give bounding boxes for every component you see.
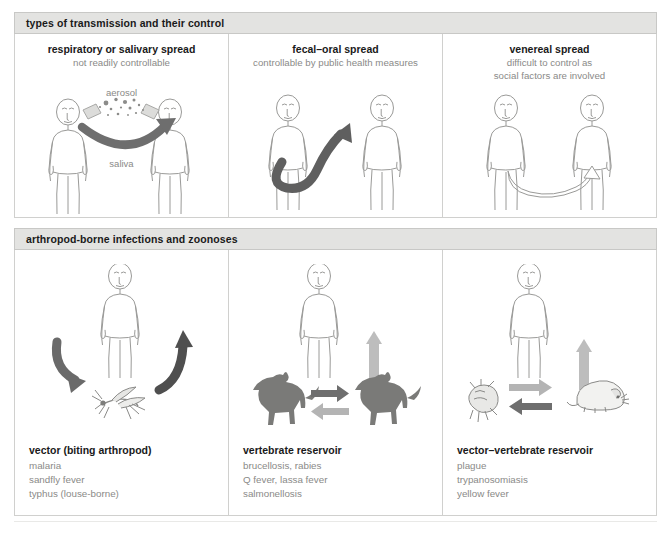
fecal-oral-spread-illustration bbox=[236, 92, 436, 217]
column-subtitle: not readily controllable bbox=[15, 57, 228, 70]
thin-arc-arrow-icon bbox=[508, 166, 600, 197]
label-saliva: saliva bbox=[15, 158, 228, 169]
curved-arrow-icon bbox=[82, 118, 176, 145]
human-figure bbox=[101, 264, 139, 378]
flea-icon bbox=[469, 379, 498, 422]
column-title: fecal–oral spread bbox=[229, 43, 442, 57]
caption-vector-vertebrate-reservoir: vector–vertebrate reservoir plague trypa… bbox=[457, 443, 648, 501]
s-curve-arrow-icon bbox=[276, 123, 352, 188]
caption-item: trypanosomiasis bbox=[457, 473, 648, 487]
column-subtitle-line-1: difficult to control as bbox=[443, 57, 656, 70]
section-header-arthropod: arthropod-borne infections and zoonoses bbox=[14, 228, 657, 250]
aerosol-droplets-icon bbox=[83, 97, 159, 118]
column-vertebrate-reservoir: vertebrate reservoir brucellosis, rabies… bbox=[229, 250, 443, 515]
caption-item: sandfly fever bbox=[29, 473, 220, 487]
left-arrow-icon bbox=[509, 398, 552, 415]
column-subtitle: controllable by public health measures bbox=[229, 57, 442, 70]
right-arrow-icon bbox=[311, 385, 349, 402]
section-header-title: arthropod-borne infections and zoonoses bbox=[26, 233, 238, 245]
right-arrow-icon bbox=[509, 379, 552, 396]
caption-item: Q fever, lassa fever bbox=[243, 473, 434, 487]
venereal-spread-illustration bbox=[450, 92, 650, 217]
section-header-transmission: types of transmission and their control bbox=[14, 12, 657, 34]
human-figure bbox=[300, 264, 338, 378]
column-title: venereal spread bbox=[443, 43, 656, 57]
human-figure bbox=[572, 95, 610, 210]
curved-arrow-down-icon bbox=[56, 342, 86, 393]
artwork-respiratory: aerosol saliva bbox=[15, 70, 228, 215]
caption-vector: vector (biting arthropod) malaria sandfl… bbox=[29, 443, 220, 501]
up-arrow-icon bbox=[576, 339, 592, 390]
arthropod-columns: vector (biting arthropod) malaria sandfl… bbox=[14, 250, 657, 516]
artwork-vector-vertebrate bbox=[443, 250, 656, 439]
column-heading: venereal spread difficult to control as … bbox=[443, 34, 656, 82]
figure-root: types of transmission and their control … bbox=[0, 0, 671, 540]
dog-icon bbox=[355, 372, 421, 425]
column-vector-vertebrate-reservoir: vector–vertebrate reservoir plague trypa… bbox=[443, 250, 656, 515]
curved-arrow-up-icon bbox=[159, 330, 193, 390]
footer-divider bbox=[14, 521, 657, 522]
column-title: respiratory or salivary spread bbox=[15, 43, 228, 57]
section-types-of-transmission: types of transmission and their control … bbox=[14, 12, 657, 218]
artwork-vector bbox=[15, 250, 228, 439]
caption-item: plague bbox=[457, 459, 648, 473]
caption-item: salmonellosis bbox=[243, 487, 434, 501]
section-header-title: types of transmission and their control bbox=[26, 17, 224, 29]
mosquito-icon bbox=[92, 387, 145, 419]
human-figure bbox=[48, 99, 86, 214]
column-respiratory-salivary-spread: respiratory or salivary spread not readi… bbox=[15, 34, 229, 217]
section-arthropod-borne-infections: arthropod-borne infections and zoonoses bbox=[14, 228, 657, 516]
vector-cycle-illustration bbox=[19, 264, 224, 439]
human-figure bbox=[268, 95, 306, 210]
column-vector-biting-arthropod: vector (biting arthropod) malaria sandfl… bbox=[15, 250, 229, 515]
column-heading: respiratory or salivary spread not readi… bbox=[15, 34, 228, 70]
caption-vertebrate-reservoir: vertebrate reservoir brucellosis, rabies… bbox=[243, 443, 434, 501]
artwork-vertebrate-reservoir bbox=[229, 250, 442, 439]
caption-item: brucellosis, rabies bbox=[243, 459, 434, 473]
rat-icon bbox=[567, 381, 629, 413]
caption-item: typhus (louse-borne) bbox=[29, 487, 220, 501]
vector-vertebrate-reservoir-illustration bbox=[447, 264, 652, 439]
column-subtitle-line-2: social factors are involved bbox=[443, 70, 656, 83]
caption-item: yellow fever bbox=[457, 487, 648, 501]
left-arrow-icon bbox=[311, 403, 349, 420]
column-heading: fecal–oral spread controllable by public… bbox=[229, 34, 442, 70]
artwork-fecal-oral bbox=[229, 70, 442, 217]
caption-item: malaria bbox=[29, 459, 220, 473]
column-fecal-oral-spread: fecal–oral spread controllable by public… bbox=[229, 34, 443, 217]
human-figure bbox=[362, 95, 400, 210]
human-figure bbox=[486, 95, 524, 210]
vertebrate-reservoir-illustration bbox=[233, 264, 438, 439]
caption-title: vertebrate reservoir bbox=[243, 443, 434, 458]
caption-title: vector–vertebrate reservoir bbox=[457, 443, 648, 458]
human-figure bbox=[150, 99, 188, 214]
label-aerosol: aerosol bbox=[15, 87, 228, 98]
caption-title: vector (biting arthropod) bbox=[29, 443, 220, 458]
transmission-columns: respiratory or salivary spread not readi… bbox=[14, 34, 657, 218]
human-figure bbox=[510, 264, 548, 378]
dog-icon bbox=[253, 372, 319, 425]
artwork-venereal bbox=[443, 82, 656, 217]
column-venereal-spread: venereal spread difficult to control as … bbox=[443, 34, 656, 217]
